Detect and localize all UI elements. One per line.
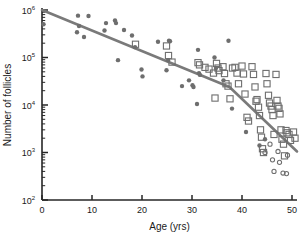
data-point-open-square: [244, 114, 250, 120]
data-point-open-square: [252, 84, 258, 90]
data-point-filled-circle: [140, 74, 144, 78]
data-point-open-circle: [277, 160, 281, 164]
data-point-open-circle: [272, 169, 276, 173]
data-point-open-square: [195, 60, 201, 66]
data-point-filled-circle: [139, 67, 143, 71]
data-point-filled-circle: [76, 13, 80, 17]
data-point-open-square: [165, 52, 171, 58]
data-point-open-square: [265, 92, 271, 98]
x-axis-tick-label: 10: [87, 205, 97, 215]
data-point-filled-circle: [244, 130, 248, 134]
data-point-filled-circle: [41, 22, 45, 26]
x-axis-tick-label: 0: [39, 205, 44, 215]
y-axis-tick-label: 105: [22, 52, 36, 63]
data-point-filled-circle: [86, 14, 90, 18]
data-point-filled-circle: [196, 48, 200, 52]
data-point-open-square: [249, 64, 255, 70]
data-point-filled-circle: [75, 30, 79, 34]
data-point-open-circle: [270, 158, 274, 162]
data-point-open-square: [213, 60, 219, 66]
data-point-open-square: [235, 81, 241, 87]
regression-fit-line: [42, 10, 297, 151]
data-point-open-square: [206, 66, 212, 72]
data-point-open-square: [245, 118, 251, 124]
data-point-open-square: [264, 81, 270, 87]
data-point-open-square: [290, 129, 296, 135]
data-point-open-square: [292, 135, 298, 141]
data-point-filled-circle: [226, 39, 230, 43]
data-point-filled-circle: [212, 55, 216, 59]
data-point-open-circle: [268, 142, 272, 146]
data-point-open-square: [270, 112, 276, 118]
chart-canvas: 10210310410510601020304050Age (yrs)Numbe…: [0, 0, 303, 240]
data-point-filled-circle: [130, 33, 134, 37]
x-axis-tick-label: 50: [287, 205, 297, 215]
y-axis-tick-label: 102: [22, 195, 36, 206]
follicle-count-scatter-chart: 10210310410510601020304050Age (yrs)Numbe…: [0, 0, 303, 240]
data-point-filled-circle: [198, 73, 202, 77]
data-point-filled-circle: [195, 102, 199, 106]
data-point-open-square: [255, 104, 261, 110]
data-point-filled-circle: [104, 21, 108, 25]
y-axis-title: Number of follicles: [2, 64, 13, 146]
x-axis-title: Age (yrs): [149, 221, 190, 232]
data-point-open-square: [273, 71, 279, 77]
data-point-open-square: [227, 96, 233, 102]
data-point-filled-circle: [180, 84, 184, 88]
data-point-filled-circle: [102, 28, 106, 32]
x-axis-tick-label: 30: [187, 205, 197, 215]
data-point-open-square: [239, 63, 245, 69]
data-point-filled-circle: [116, 58, 120, 62]
data-point-filled-circle: [230, 106, 234, 110]
data-point-open-square: [257, 127, 263, 133]
data-point-open-square: [242, 91, 248, 97]
y-axis-tick-label: 104: [22, 100, 36, 111]
data-point-open-square: [263, 70, 269, 76]
data-point-filled-circle: [77, 24, 81, 28]
data-point-filled-circle: [82, 35, 86, 39]
data-point-filled-circle: [114, 21, 118, 25]
data-point-open-square: [163, 43, 169, 49]
data-point-filled-circle: [164, 68, 168, 72]
data-point-filled-circle: [122, 28, 126, 32]
y-axis-tick-label: 103: [22, 147, 36, 158]
y-axis-tick-label: 106: [22, 5, 36, 16]
data-point-open-square: [212, 95, 218, 101]
data-point-open-square: [240, 71, 246, 77]
data-point-open-circle: [276, 149, 280, 153]
data-point-open-square: [250, 71, 256, 77]
data-point-filled-circle: [191, 85, 195, 89]
data-point-filled-circle: [156, 40, 160, 44]
data-point-filled-circle: [187, 78, 191, 82]
x-axis-tick-label: 40: [237, 205, 247, 215]
x-axis-tick-label: 20: [137, 205, 147, 215]
